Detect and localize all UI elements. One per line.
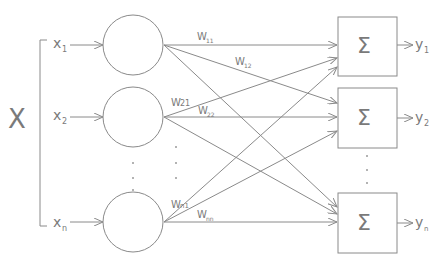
output-label-n: y n xyxy=(415,214,428,233)
svg-text:y: y xyxy=(415,214,423,230)
input-bracket xyxy=(40,40,47,226)
output-label-2: y 2 xyxy=(415,109,429,128)
weight-label-w21: W 21 xyxy=(171,97,190,108)
neuron-ellipsis xyxy=(132,162,134,191)
svg-text:2: 2 xyxy=(62,117,67,126)
svg-text:n: n xyxy=(424,225,428,233)
input-label-n: x n xyxy=(53,214,67,233)
input-neuron-1 xyxy=(103,15,163,75)
weight-label-w11: W 11 xyxy=(197,31,214,44)
svg-text:nn: nn xyxy=(206,215,214,222)
input-label-2: x 2 xyxy=(53,107,67,126)
sigma-symbol-n: Σ xyxy=(357,210,371,235)
weight-connections xyxy=(164,45,337,222)
svg-text:y: y xyxy=(415,36,423,52)
svg-text:2: 2 xyxy=(424,119,429,128)
input-neuron-2 xyxy=(103,87,163,147)
sigma-symbol-2: Σ xyxy=(357,105,371,130)
svg-text:n1: n1 xyxy=(180,202,189,210)
svg-text:n: n xyxy=(62,224,67,233)
weight-ellipsis xyxy=(175,146,177,179)
svg-text:y: y xyxy=(415,109,423,125)
weight-label-w12: W 12 xyxy=(235,56,252,69)
svg-text:22: 22 xyxy=(207,111,215,118)
weight-label-wnn: W nn xyxy=(197,209,214,222)
output-label-1: y 1 xyxy=(415,36,429,55)
svg-text:21: 21 xyxy=(180,99,190,108)
weight-label-w22: W 22 xyxy=(198,105,215,118)
output-ellipsis xyxy=(366,155,368,184)
svg-text:11: 11 xyxy=(206,37,214,44)
input-neuron-n xyxy=(103,192,163,252)
svg-text:x: x xyxy=(53,35,61,51)
input-label-1: x 1 xyxy=(53,35,67,54)
svg-text:1: 1 xyxy=(62,45,67,54)
sigma-symbol-1: Σ xyxy=(357,33,371,58)
svg-text:x: x xyxy=(53,107,61,123)
weight-label-wn1: W n1 xyxy=(171,199,189,210)
svg-text:1: 1 xyxy=(424,46,429,55)
svg-text:12: 12 xyxy=(244,62,252,69)
svg-text:x: x xyxy=(53,214,61,230)
neural-network-diagram: X x 1 x 2 x n xyxy=(0,0,444,265)
input-vector-label: X xyxy=(8,104,26,134)
